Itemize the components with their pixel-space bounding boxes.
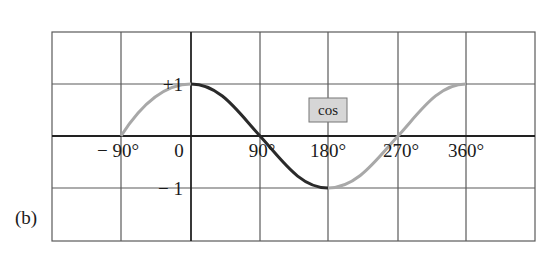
x-label-minus-90: − 90°	[97, 140, 139, 161]
x-label-0: 0	[174, 140, 184, 161]
x-label-90: 90°	[249, 140, 276, 161]
cos-label: cos	[309, 98, 347, 122]
cosine-graph: cos +1 − 1 − 90° 0 90° 180° 270° 360° (b…	[0, 0, 552, 267]
x-label-360: 360°	[448, 140, 484, 161]
x-label-270: 270°	[383, 140, 419, 161]
cos-label-text: cos	[318, 102, 338, 118]
x-label-180: 180°	[310, 140, 346, 161]
panel-label: (b)	[15, 207, 37, 229]
axes	[52, 32, 535, 241]
y-label-minus-one: − 1	[158, 178, 183, 199]
y-label-plus-one: +1	[163, 74, 183, 95]
